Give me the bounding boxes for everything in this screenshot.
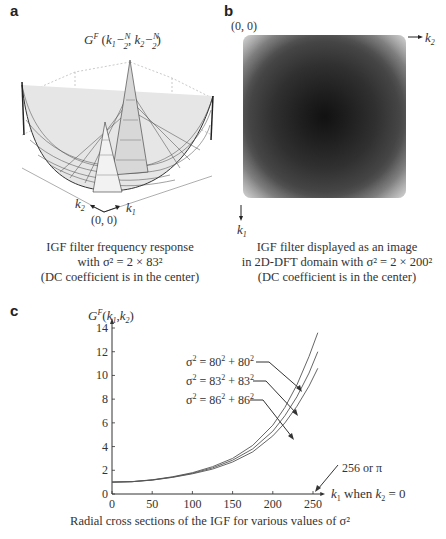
y-tick-label: 6 [102,416,108,430]
x-tick-label: 100 [183,497,201,511]
panel-c-line-chart: 02468101214050100150200250GF(k1,k2)k1 wh… [0,0,446,539]
legend-label-1: σ2 = 802 + 802 [186,354,254,369]
legend-arrow-icon [288,433,294,440]
y-tick-label: 8 [102,392,108,406]
y-tick-label: 2 [102,463,108,477]
x-tick-label: 0 [109,497,115,511]
panel-c-caption: Radial cross sections of the IGF for var… [60,514,360,529]
y-tick-label: 4 [102,440,108,454]
x-axis-arrow-icon [320,492,325,496]
x-axis-label: k1 when k2 = 0 [331,486,406,503]
y-tick-label: 14 [96,321,108,335]
series-line-2 [112,352,318,482]
x-tick-label: 50 [146,497,158,511]
y-tick-label: 10 [96,368,108,382]
y-tick-label: 12 [96,345,108,359]
x-tick-label: 200 [264,497,282,511]
y-axis-label: GF(k1,k2) [88,308,134,325]
x-tick-label: 250 [304,497,322,511]
legend-label-3: σ2 = 862 + 862 [186,392,254,407]
legend-label-2: σ2 = 832 + 832 [186,373,254,388]
end-annotation: 256 or π [342,461,382,475]
y-tick-label: 0 [102,487,108,501]
x-tick-label: 150 [224,497,242,511]
